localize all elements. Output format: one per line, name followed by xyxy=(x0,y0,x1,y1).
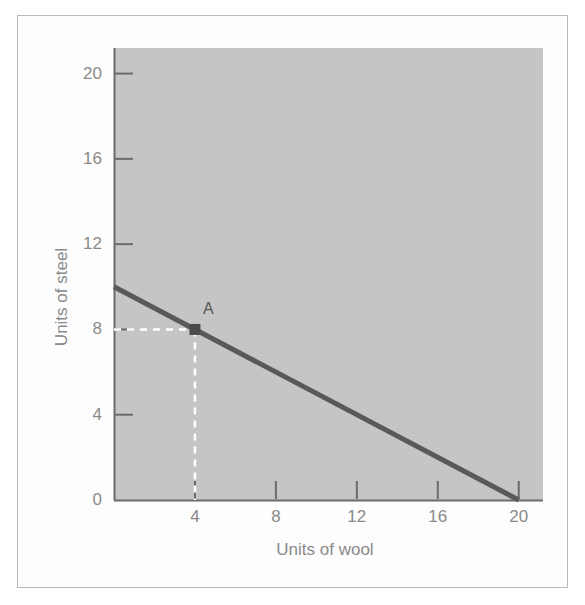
plot-background xyxy=(114,48,543,500)
y-tick-label: 20 xyxy=(68,65,102,82)
x-tick-label: 8 xyxy=(259,508,293,525)
chart-root: 048121620 48121620 Units of steel Units … xyxy=(0,0,585,605)
x-tick-label: 4 xyxy=(178,508,212,525)
y-tick-label: 4 xyxy=(68,406,102,423)
x-tick-label: 20 xyxy=(502,508,536,525)
x-tick-label: 16 xyxy=(421,508,455,525)
point-a-label: A xyxy=(203,301,214,317)
y-axis-title: Units of steel xyxy=(52,197,72,397)
y-tick-label: 16 xyxy=(68,150,102,167)
annotation-markers xyxy=(189,324,200,335)
x-axis-title: Units of wool xyxy=(195,540,455,560)
y-tick-label: 12 xyxy=(68,235,102,252)
plot-area xyxy=(114,48,543,500)
x-tick-label: 12 xyxy=(340,508,374,525)
point-a-marker xyxy=(189,324,200,335)
y-tick-label: 8 xyxy=(68,320,102,337)
y-tick-label: 0 xyxy=(68,491,102,508)
